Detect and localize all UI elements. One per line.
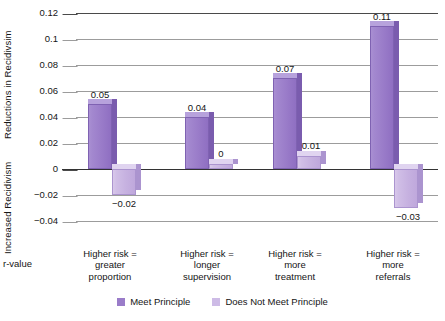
bar-front-face	[273, 78, 297, 169]
value-label-meet-longer-supervision: 0.04	[167, 102, 227, 113]
y-tick-neg-0-02: −0.02	[14, 190, 58, 200]
y-tick-0-10: 0.1	[14, 34, 58, 44]
value-label-notmeet-greater-proportion: −0.02	[94, 198, 154, 209]
value-label-meet-more-referrals: 0.11	[352, 11, 412, 22]
bar-front-face	[394, 169, 418, 208]
category-line-3: proportion	[62, 271, 158, 282]
legend-label-meet-principle: Meet Principle	[130, 296, 190, 307]
bar-notmeet-longer-supervision[interactable]	[209, 164, 233, 169]
value-label-meet-more-treatment: 0.07	[255, 63, 315, 74]
category-line-1: Higher risk =	[247, 248, 343, 259]
category-line-3: referrals	[345, 271, 441, 282]
y-tick-0-06: 0.06	[14, 86, 58, 96]
bar-side-face	[136, 164, 141, 190]
y-tick-0: 0	[14, 164, 58, 174]
bar-side-face	[112, 99, 117, 164]
category-line-3: treatment	[247, 271, 343, 282]
value-label-meet-greater-proportion: 0.05	[70, 89, 130, 100]
category-line-1: Higher risk =	[62, 248, 158, 259]
bar-meet-longer-supervision[interactable]	[185, 117, 209, 169]
bar-front-face	[297, 156, 321, 169]
bar-side-face	[321, 151, 326, 164]
y-tick-0-04: 0.04	[14, 112, 58, 122]
category-line-2: longer	[159, 259, 255, 270]
category-label-more-treatment: Higher risk = more treatment	[247, 248, 343, 282]
legend-swatch-meet-icon	[117, 298, 125, 306]
bar-notmeet-greater-proportion[interactable]	[112, 169, 136, 195]
bar-meet-more-referrals[interactable]	[370, 26, 394, 169]
category-label-more-referrals: Higher risk = more referrals	[345, 248, 441, 282]
y-tick-0-02: 0.02	[14, 138, 58, 148]
y-tick-0-12: 0.12	[14, 8, 58, 18]
value-label-notmeet-more-treatment: 0.01	[281, 140, 341, 151]
legend-label-does-not-meet-principle: Does Not Meet Principle	[225, 296, 327, 307]
gridline-neg-0-02	[76, 195, 438, 196]
category-line-2: greater	[62, 259, 158, 270]
category-line-2: more	[345, 259, 441, 270]
y-axis-tick-labels: 0.12 0.1 0.08 0.06 0.04 0.02 0 −0.02 −0.…	[14, 0, 58, 321]
legend-swatch-notmeet-icon	[212, 298, 220, 306]
bar-front-face	[370, 26, 394, 169]
value-label-notmeet-more-referrals: −0.03	[378, 211, 438, 222]
y-tick-neg-0-04: −0.04	[14, 216, 58, 226]
y-axis-title-reductions: Reductions in Recidivsim	[2, 11, 13, 139]
bar-notmeet-more-referrals[interactable]	[394, 169, 418, 208]
legend-item-does-not-meet-principle[interactable]: Does Not Meet Principle	[212, 296, 327, 307]
bar-front-face	[209, 164, 233, 169]
category-label-longer-supervision: Higher risk = longer supervision	[159, 248, 255, 282]
bar-front-face	[112, 169, 136, 195]
y-axis-title-increased: Increased Recidivism	[2, 146, 13, 254]
chart-plot-area: 0.05 −0.02 0.04 0 0.07 0.01 0	[62, 0, 442, 240]
bar-side-face	[394, 21, 399, 164]
legend-item-meet-principle[interactable]: Meet Principle	[117, 296, 190, 307]
category-line-2: more	[247, 259, 343, 270]
bar-meet-more-treatment[interactable]	[273, 78, 297, 169]
y-tick-0-08: 0.08	[14, 60, 58, 70]
bar-notmeet-more-treatment[interactable]	[297, 156, 321, 169]
bar-side-face	[233, 159, 238, 164]
bar-front-face	[185, 117, 209, 169]
bar-meet-greater-proportion[interactable]	[88, 104, 112, 169]
x-axis-category-labels: Higher risk = greater proportion Higher …	[62, 248, 442, 290]
bar-front-face	[88, 104, 112, 169]
category-line-1: Higher risk =	[159, 248, 255, 259]
category-label-greater-proportion: Higher risk = greater proportion	[62, 248, 158, 282]
chart-legend: Meet Principle Does Not Meet Principle	[0, 296, 445, 307]
category-line-1: Higher risk =	[345, 248, 441, 259]
value-label-notmeet-longer-supervision: 0	[191, 148, 251, 159]
category-line-3: supervision	[159, 271, 255, 282]
bar-side-face	[418, 164, 423, 203]
